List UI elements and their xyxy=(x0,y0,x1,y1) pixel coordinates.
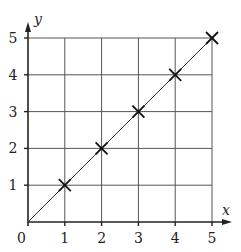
y-tick-label: 5 xyxy=(9,30,18,46)
line-y-equals-x xyxy=(28,38,212,222)
x-tick-label: 5 xyxy=(208,230,217,246)
x-axis-label: x xyxy=(222,202,230,218)
series-line xyxy=(28,38,212,222)
y-tick-label: 4 xyxy=(9,67,18,83)
y-axis-label: y xyxy=(33,11,43,27)
chart-canvas: 1234512345 x y 0 xyxy=(0,0,241,252)
y-axis-arrow-icon xyxy=(25,22,31,32)
x-tick-label: 2 xyxy=(97,230,106,246)
origin-label: 0 xyxy=(17,230,26,246)
x-tick-label: 1 xyxy=(60,230,69,246)
y-tick-label: 3 xyxy=(9,104,18,120)
x-tick-label: 3 xyxy=(134,230,143,246)
x-axis-arrow-icon xyxy=(222,219,232,225)
y-tick-label: 1 xyxy=(9,177,18,193)
x-tick-label: 4 xyxy=(171,230,180,246)
y-tick-label: 2 xyxy=(9,140,18,156)
